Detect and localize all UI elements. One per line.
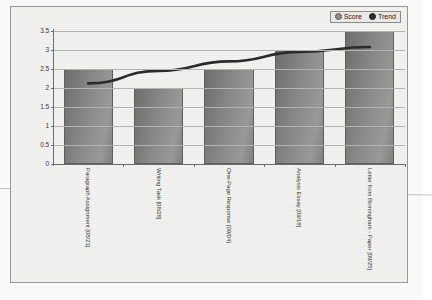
y-tick-mark-3 [51,50,54,51]
chart-legend: Score Trend [330,11,401,23]
legend-label-trend: Trend [378,13,396,20]
gridline-0 [53,164,405,165]
y-tick-label-0.5: 0.5 [19,142,49,149]
bar-1[interactable] [64,69,113,164]
x-axis-label-4: Analysis Essay [09/18] [296,168,302,227]
gridline-3.5 [53,31,405,32]
x-axis-label-1: Paragraph Assignment [08/21] [85,168,91,247]
legend-label-score: Score [344,13,362,20]
x-tick-mark-5 [405,164,406,167]
circle-marker-trend-icon [369,13,376,20]
y-tick-mark-0.5 [51,145,54,146]
gridline-0.5 [53,145,405,146]
circle-marker-score-icon [335,13,342,20]
chart-frame: Score Trend 00.511.522.533.5 Paragraph A… [10,6,408,283]
y-tick-label-1.5: 1.5 [19,104,49,111]
gridline-3 [53,50,405,51]
legend-item-score[interactable]: Score [335,13,362,20]
x-tick-mark-1 [123,164,124,167]
gridline-1 [53,126,405,127]
y-tick-label-3: 3 [19,47,49,54]
x-tick-mark-2 [194,164,195,167]
bar-3[interactable] [204,69,253,164]
y-tick-label-3.5: 3.5 [19,28,49,35]
y-tick-mark-3.5 [51,31,54,32]
y-tick-mark-2.5 [51,69,54,70]
x-tick-mark-3 [264,164,265,167]
y-tick-label-2: 2 [19,85,49,92]
y-tick-label-0: 0 [19,161,49,168]
y-tick-mark-1.5 [51,107,54,108]
x-axis-label-2: Writing Task [08/28] [156,168,162,219]
gridline-2.5 [53,69,405,70]
y-axis-labels: 00.511.522.533.5 [15,31,49,164]
y-tick-label-2.5: 2.5 [19,66,49,73]
gridline-2 [53,88,405,89]
gridline-1.5 [53,107,405,108]
legend-item-trend[interactable]: Trend [369,13,396,20]
y-tick-label-1: 1 [19,123,49,130]
x-axis-label-3: One-Page Response [09/04] [226,168,232,243]
plot-area [53,31,405,164]
x-tick-mark-4 [335,164,336,167]
x-axis-label-5: Letter from Birmingham - Paper [09/25] [367,168,373,270]
y-tick-mark-1 [51,126,54,127]
y-tick-mark-0 [51,164,54,165]
y-tick-mark-2 [51,88,54,89]
